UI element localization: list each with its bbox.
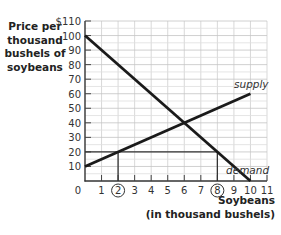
y-tick-label: 30 bbox=[68, 132, 81, 143]
y-tick-label: 40 bbox=[68, 118, 81, 129]
y-tick-label: 90 bbox=[68, 45, 81, 56]
y-tick-label: 100 bbox=[62, 31, 81, 42]
x-tick-label: 1 bbox=[98, 185, 104, 196]
x-tick-label: 10 bbox=[244, 185, 257, 196]
x-tick-label: 3 bbox=[131, 185, 137, 196]
supply-demand-chart: supplydemand102030405060708090100$110012… bbox=[0, 0, 281, 235]
x-tick-label: 6 bbox=[181, 185, 187, 196]
x-tick-label: 7 bbox=[198, 185, 204, 196]
x-tick-label: 4 bbox=[148, 185, 154, 196]
y-tick-label: 80 bbox=[68, 60, 81, 71]
y-tick-label: 20 bbox=[68, 147, 81, 158]
y-tick-label: 70 bbox=[68, 74, 81, 85]
y-tick-label: 60 bbox=[68, 89, 81, 100]
x-tick-label: 8 bbox=[214, 185, 220, 196]
x-tick-label: 5 bbox=[165, 185, 171, 196]
y-tick-label: 50 bbox=[68, 103, 81, 114]
supply-curve-label: supply bbox=[234, 78, 269, 90]
y-tick-label: $110 bbox=[56, 16, 81, 27]
x-tick-label: 0 bbox=[75, 185, 81, 196]
grid bbox=[85, 21, 267, 181]
x-tick-label: 9 bbox=[231, 185, 237, 196]
x-tick-label: 2 bbox=[115, 185, 121, 196]
x-tick-label: 11 bbox=[261, 185, 274, 196]
y-tick-label: 10 bbox=[68, 161, 81, 172]
demand-curve-label: demand bbox=[226, 164, 269, 176]
